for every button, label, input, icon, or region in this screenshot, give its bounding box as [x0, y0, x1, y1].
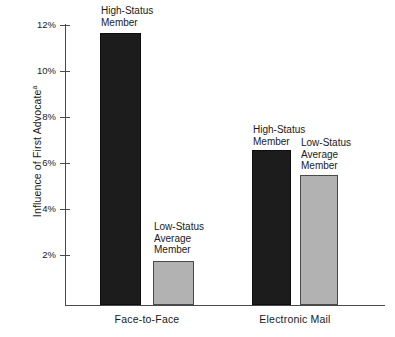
bar-electronic-mail-low-status [300, 175, 338, 305]
y-axis-tick-label-8: 8% [20, 112, 56, 122]
x-axis-category-face-to-face: Face-to-Face [87, 313, 207, 325]
bar-chart: Influence of First Advocatea 12% 10% 8% … [0, 0, 395, 337]
y-axis-tick-6 [60, 163, 70, 164]
bar-label-face-to-face-low-status: Low-Status Average Member [154, 221, 204, 256]
x-axis-line [65, 305, 385, 306]
y-axis-title-footnote-marker: a [31, 85, 38, 89]
bar-face-to-face-low-status [153, 261, 194, 305]
bar-electronic-mail-high-status [252, 150, 291, 305]
y-axis-tick-2 [60, 255, 70, 256]
bar-label-electronic-mail-low-status: Low-Status Average Member [301, 137, 351, 172]
y-axis-tick-label-10: 10% [20, 66, 56, 76]
y-axis-title-text: Influence of First Advocate [31, 89, 43, 217]
y-axis-tick-10 [60, 71, 70, 72]
y-axis-tick-4 [60, 209, 70, 210]
y-axis-tick-12 [60, 25, 70, 26]
y-axis-tick-label-12: 12% [20, 20, 56, 30]
bar-label-electronic-mail-high-status: High-Status Member [253, 124, 305, 147]
x-axis-category-electronic-mail: Electronic Mail [235, 313, 355, 325]
y-axis-tick-label-6: 6% [20, 158, 56, 168]
y-axis-line [65, 24, 66, 306]
y-axis-tick-label-4: 4% [20, 204, 56, 214]
y-axis-tick-label-2: 2% [20, 250, 56, 260]
y-axis-tick-8 [60, 117, 70, 118]
bar-face-to-face-high-status [100, 33, 141, 305]
bar-label-face-to-face-high-status: High-Status Member [101, 5, 153, 28]
